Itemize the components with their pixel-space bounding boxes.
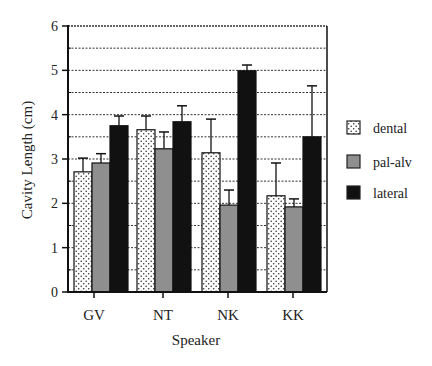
y-tick-label: 6 [51, 19, 58, 34]
legend-label-pal-alv: pal-alv [373, 155, 412, 170]
y-tick-label: 4 [51, 108, 58, 123]
legend-label-lateral: lateral [373, 186, 408, 201]
x-tick-label: GV [83, 307, 105, 323]
bar-lateral-KK [303, 137, 321, 292]
legend-swatch-pal-alv [347, 155, 360, 168]
x-tick-label: NK [217, 307, 239, 323]
bar-pal-alv-KK [285, 207, 303, 292]
bar-lateral-GV [110, 126, 128, 292]
bar-lateral-NK [238, 71, 256, 292]
x-axis-ticks: GVNTNKKK [83, 292, 304, 323]
legend-label-dental: dental [373, 121, 407, 136]
legend-swatch-lateral [347, 186, 360, 199]
y-axis-label: Cavity Length (cm) [19, 101, 36, 219]
bar-dental-GV [74, 172, 92, 292]
bar-pal-alv-NT [155, 149, 173, 292]
y-tick-label: 5 [51, 63, 58, 78]
x-tick-label: NT [153, 307, 173, 323]
bars [74, 65, 321, 292]
y-tick-label: 0 [51, 285, 58, 300]
x-tick-label: KK [282, 307, 304, 323]
bar-dental-NT [137, 130, 155, 292]
bar-lateral-NT [173, 122, 191, 292]
bar-pal-alv-NK [220, 205, 238, 292]
y-tick-label: 1 [51, 241, 58, 256]
x-axis-label: Speaker [172, 332, 220, 348]
bar-chart: 0123456 GVNTNKKK Cavity Length (cm) Spea… [0, 0, 432, 366]
bar-dental-KK [267, 196, 285, 292]
bar-dental-NK [202, 153, 220, 292]
y-tick-label: 3 [51, 152, 58, 167]
legend-swatch-dental [347, 121, 360, 134]
legend: dentalpal-alvlateral [347, 121, 412, 201]
bar-pal-alv-GV [92, 163, 110, 292]
y-tick-label: 2 [51, 196, 58, 211]
